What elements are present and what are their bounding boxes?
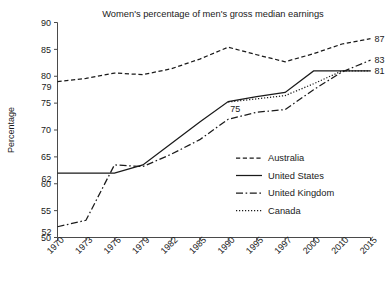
chart-legend: AustraliaUnited StatesUnited KingdomCana…: [236, 153, 334, 216]
legend-label-united-kingdom: United Kingdom: [268, 188, 334, 198]
data-label-52: 52: [41, 227, 51, 237]
y-tick-label: 70: [41, 125, 51, 135]
series-line-united-kingdom: [58, 60, 371, 227]
data-label-75: 75: [230, 104, 240, 114]
data-label-79: 79: [41, 82, 51, 92]
line-chart: Women's percentage of men's gross median…: [0, 0, 389, 290]
y-tick-label: 75: [41, 98, 51, 108]
x-axis: 1970197319761979198219851990199519972000…: [45, 235, 379, 256]
data-label-62: 62: [41, 174, 51, 184]
data-label-81: 81: [375, 66, 385, 76]
data-label-83: 83: [375, 55, 385, 65]
y-tick-label: 90: [41, 18, 51, 28]
series-line-australia: [58, 39, 371, 82]
y-tick-label: 80: [41, 71, 51, 81]
data-label-87: 87: [375, 34, 385, 44]
y-tick-label: 65: [41, 152, 51, 162]
legend-label-united-states: United States: [268, 171, 324, 181]
y-tick-label: 55: [41, 206, 51, 216]
series-lines: [58, 39, 371, 227]
legend-label-australia: Australia: [268, 153, 305, 163]
y-axis-label: Percentage: [6, 107, 16, 153]
chart-canvas: Women's percentage of men's gross median…: [0, 0, 389, 290]
series-line-united-states: [58, 71, 371, 173]
y-tick-label: 85: [41, 45, 51, 55]
legend-label-canada: Canada: [268, 206, 301, 216]
y-axis: 505560657075808590: [41, 18, 58, 243]
chart-title: Women's percentage of men's gross median…: [102, 9, 324, 19]
